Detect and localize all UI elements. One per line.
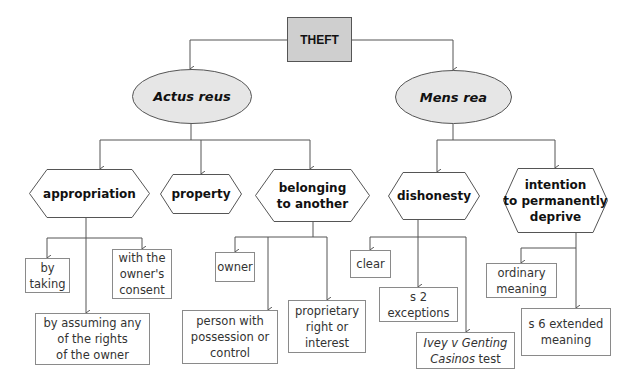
element-belonging-to-another: belonging to another	[255, 169, 370, 222]
leaf-ivey-test: Ivey v Genting Casinos test	[416, 332, 515, 369]
branch-actus-reus: Actus reus	[132, 69, 252, 124]
leaf-label: proprietary right or interest	[295, 303, 359, 351]
branch-label-mens-rea: Mens rea	[420, 90, 487, 105]
label-line: proprietary	[295, 304, 359, 318]
label-line: control	[210, 346, 250, 360]
leaf-label: by assuming any of the rights of the own…	[44, 315, 142, 363]
label-line: by assuming any	[44, 316, 142, 330]
label-line: meaning	[496, 282, 546, 296]
label-line: s 6 extended	[529, 317, 604, 331]
label-line: meaning	[541, 333, 591, 347]
label-line: deprive	[530, 210, 581, 224]
label-line: test	[475, 352, 501, 366]
label-line: intention	[525, 178, 587, 192]
element-label-property: property	[172, 186, 231, 202]
leaf-clear: clear	[350, 250, 391, 278]
label-line: person with	[196, 314, 263, 328]
leaf-by-assuming-rights: by assuming any of the rights of the own…	[35, 313, 150, 365]
case-name-italic: Ivey v Genting	[424, 336, 508, 350]
branch-label-actus-reus: Actus reus	[153, 89, 230, 104]
leaf-with-owners-consent: with the owner's consent	[112, 249, 172, 299]
label-line: of the rights	[57, 332, 127, 346]
label-line: interest	[305, 336, 349, 350]
leaf-label: ordinary meaning	[496, 265, 546, 297]
element-dishonesty: dishonesty	[388, 172, 480, 220]
leaf-person-with-possession: person with possession or control	[182, 310, 278, 364]
label-line: exceptions	[387, 306, 449, 320]
label-line: with the	[119, 251, 166, 265]
branch-mens-rea: Mens rea	[395, 70, 512, 124]
leaf-s2-exceptions: s 2 exceptions	[379, 287, 458, 322]
element-intention-to-permanently-deprive: intention to permanently deprive	[503, 168, 608, 233]
label-line: right or	[306, 320, 348, 334]
leaf-proprietary-right: proprietary right or interest	[288, 300, 366, 353]
element-label-appropriation: appropriation	[43, 186, 136, 202]
leaf-label: clear	[356, 256, 384, 272]
label-line: consent	[119, 283, 165, 297]
element-appropriation: appropriation	[29, 169, 150, 218]
label-line: to permanently	[503, 194, 607, 208]
leaf-label: owner	[217, 259, 253, 275]
leaf-label: s 6 extended meaning	[529, 316, 604, 348]
label-line: ordinary	[498, 266, 546, 280]
leaf-label: by taking	[30, 260, 66, 292]
leaf-label: person with possession or control	[191, 313, 269, 361]
leaf-label: s 2 exceptions	[387, 289, 449, 321]
label-line: possession or	[191, 330, 269, 344]
element-label-belonging: belonging to another	[277, 180, 348, 212]
leaf-s6-extended-meaning: s 6 extended meaning	[521, 308, 611, 356]
label-line: s 2	[410, 290, 427, 304]
leaf-label: Ivey v Genting Casinos test	[424, 335, 508, 367]
label-line: of the owner	[56, 348, 129, 362]
root-label: THEFT	[300, 33, 339, 47]
leaf-ordinary-meaning: ordinary meaning	[486, 263, 557, 298]
leaf-label: with the owner's consent	[119, 250, 166, 298]
label-line: belonging	[279, 181, 346, 195]
label-line: taking	[30, 277, 66, 291]
label-line: to another	[277, 197, 348, 211]
element-property: property	[160, 174, 242, 214]
label-line: owner's	[120, 267, 165, 281]
element-label-dishonesty: dishonesty	[397, 188, 471, 204]
label-line: by	[40, 261, 54, 275]
leaf-by-taking: by taking	[25, 258, 70, 293]
case-name-italic: Casinos	[430, 352, 475, 366]
element-label-ipd: intention to permanently deprive	[503, 177, 607, 225]
leaf-owner: owner	[215, 252, 255, 282]
root-node-theft: THEFT	[287, 17, 352, 62]
